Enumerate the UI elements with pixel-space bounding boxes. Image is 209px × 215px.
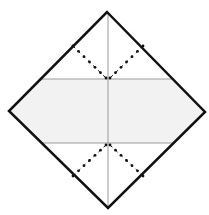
valley-fold-dot <box>105 144 108 147</box>
valley-fold-dot <box>120 154 123 157</box>
valley-fold-dot <box>125 159 128 162</box>
valley-fold-dot <box>99 71 102 74</box>
valley-fold-dot <box>83 164 86 167</box>
diagram-canvas: Origami step: valley fold corners to cen… <box>0 0 209 215</box>
valley-fold-dot <box>114 149 117 152</box>
valley-fold-dot <box>114 71 117 74</box>
valley-fold-dot <box>88 61 91 64</box>
valley-fold-dot <box>131 55 134 58</box>
valley-fold-dot <box>94 154 97 157</box>
valley-fold-dot <box>94 66 97 69</box>
paper-top-region <box>0 0 209 79</box>
valley-fold-dot <box>136 50 139 53</box>
paper-fill <box>0 0 209 215</box>
valley-fold-dot <box>99 149 102 152</box>
valley-fold-dot <box>109 77 112 80</box>
valley-fold-dot <box>88 159 91 162</box>
origami-diagram <box>0 0 209 215</box>
valley-fold-dot <box>125 61 128 64</box>
valley-fold-dot <box>109 144 112 147</box>
valley-fold-dot <box>77 50 80 53</box>
valley-fold-dot <box>136 169 139 172</box>
valley-fold-dot <box>83 55 86 58</box>
valley-fold-dot <box>131 164 134 167</box>
valley-fold-dot <box>120 66 123 69</box>
valley-fold-dot <box>105 77 108 80</box>
valley-fold-dot <box>77 169 80 172</box>
